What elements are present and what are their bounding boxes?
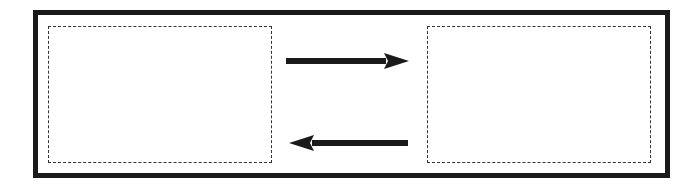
arrow-right-icon — [286, 53, 409, 69]
arrow-left-icon — [289, 135, 408, 151]
arrows — [0, 0, 699, 185]
